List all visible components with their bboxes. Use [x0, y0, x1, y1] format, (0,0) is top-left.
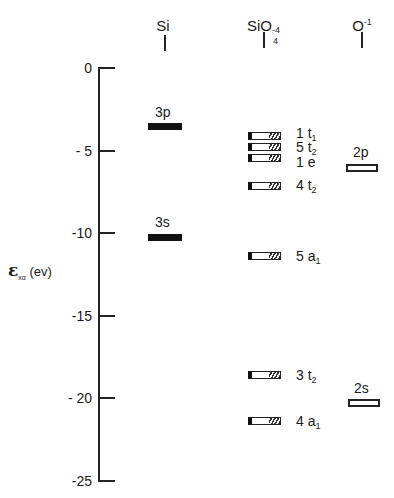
column-marker-sio4: [263, 32, 265, 48]
level-label-si-3p: 3p: [155, 104, 171, 120]
level-label-sio4-3t2: 3 t2: [296, 367, 317, 385]
level-bar-si-3s: [148, 234, 182, 241]
y-tick-label: 0: [52, 60, 92, 76]
y-tick-label: -25: [52, 473, 92, 489]
level-label-sio4-4t2: 4 t2: [296, 177, 317, 195]
level-label-sio4-1e: 1 e: [296, 154, 315, 170]
level-bar-sio4-3t2: [248, 371, 281, 379]
level-bar-sio4-1t1: [248, 132, 281, 140]
y-tick-label: - 5: [52, 143, 92, 159]
y-tick: [98, 397, 115, 399]
level-bar-sio4-1e: [248, 154, 281, 162]
level-label-si-3s: 3s: [155, 214, 170, 230]
level-bar-sio4-5t2: [248, 143, 281, 151]
level-label-o-2s: 2s: [354, 380, 369, 396]
y-tick: [98, 150, 115, 152]
level-bar-sio4-4a1: [248, 417, 281, 425]
level-bar-o-2p: [346, 164, 378, 172]
level-bar-si-3p: [148, 123, 182, 130]
y-tick: [98, 480, 115, 482]
level-label-sio4-5a1: 5 a1: [296, 248, 320, 266]
level-bar-sio4-5a1: [248, 252, 281, 260]
level-label-o-2p: 2p: [353, 144, 369, 160]
column-marker-o: [361, 32, 363, 48]
level-label-sio4-4a1: 4 a1: [296, 413, 320, 431]
y-tick: [98, 232, 115, 234]
y-tick: [98, 67, 115, 69]
level-bar-sio4-4t2: [248, 182, 281, 190]
y-tick-label: -10: [52, 225, 92, 241]
column-title-si: Si: [133, 17, 193, 34]
y-tick-label: -15: [52, 308, 92, 324]
y-axis-label: εxα (ev): [8, 260, 52, 281]
y-axis: [98, 67, 100, 482]
y-tick-label: - 20: [52, 390, 92, 406]
level-bar-o-2s: [348, 399, 380, 407]
y-tick: [98, 315, 115, 317]
column-marker-si: [164, 35, 166, 51]
